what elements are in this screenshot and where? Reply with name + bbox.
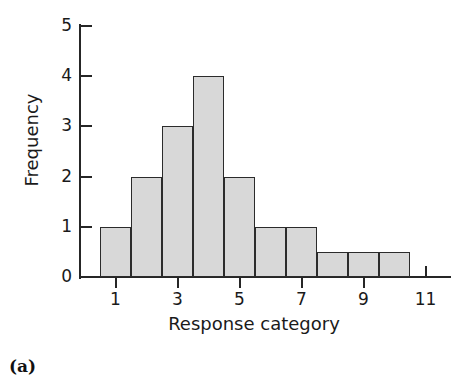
bar — [224, 177, 255, 277]
bar — [348, 252, 379, 277]
x-axis-title: Response category — [80, 313, 428, 335]
y-axis-tick — [81, 75, 92, 77]
x-axis-tick-label: 11 — [406, 290, 446, 309]
bar — [255, 227, 286, 277]
y-axis-tick-label: 0 — [50, 268, 72, 285]
x-axis-tick-label: 9 — [344, 290, 384, 309]
y-axis-tick-label: 5 — [50, 17, 72, 34]
x-axis-tick — [425, 266, 427, 277]
y-axis-tick — [81, 25, 92, 27]
bar — [100, 227, 131, 277]
x-axis-tick — [115, 278, 117, 288]
x-axis-tick — [363, 278, 365, 288]
y-axis-tick-label: 1 — [50, 218, 72, 235]
y-axis-tick-label: 4 — [50, 67, 72, 84]
y-axis-tick-label: 3 — [50, 117, 72, 134]
bar — [286, 227, 317, 277]
panel-caption: (a) — [9, 356, 36, 376]
x-axis-tick-label: 1 — [96, 290, 136, 309]
y-axis-tick-label: 2 — [50, 168, 72, 185]
y-axis-tick — [81, 176, 92, 178]
bar — [162, 126, 193, 277]
figure-panel-a: 012345 1357911 Frequency Response catego… — [0, 0, 462, 387]
y-axis-tick — [81, 125, 92, 127]
bar — [317, 252, 348, 277]
bar — [193, 76, 224, 277]
bar — [379, 252, 410, 277]
y-axis-tick — [81, 276, 92, 278]
x-axis-tick — [177, 278, 179, 288]
y-axis-title: Frequency — [22, 40, 42, 240]
x-axis-tick-label: 5 — [220, 290, 260, 309]
x-axis-tick — [239, 278, 241, 288]
x-axis-tick-label: 3 — [158, 290, 198, 309]
x-axis-tick-label: 7 — [282, 290, 322, 309]
bar — [131, 177, 162, 277]
x-axis-tick — [301, 278, 303, 288]
y-axis-tick — [81, 226, 92, 228]
y-axis-line — [79, 24, 81, 279]
